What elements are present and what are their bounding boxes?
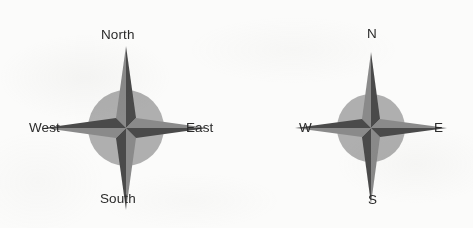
compass-label-east: East <box>186 121 213 135</box>
compass-label-south: S <box>368 193 377 207</box>
compass-label-west: W <box>299 121 312 135</box>
ray-north <box>116 46 136 128</box>
ray-north <box>362 52 380 128</box>
compass-label-east: E <box>434 121 443 135</box>
compass-label-north: North <box>101 28 135 42</box>
compass-label-north: N <box>367 27 377 41</box>
compass-rose-right-graphic <box>250 0 473 228</box>
compass-label-west: West <box>29 121 60 135</box>
compass-rose-left: North East South West <box>0 0 250 228</box>
compass-rose-figure: North East South West <box>0 0 473 228</box>
compass-label-south: South <box>100 192 136 206</box>
compass-rose-right: N E S W <box>250 0 473 228</box>
